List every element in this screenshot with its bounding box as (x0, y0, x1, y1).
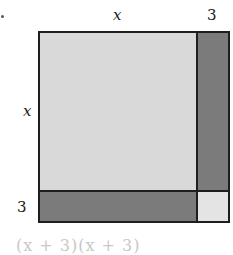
vertical-divider (196, 33, 198, 221)
expression-caption: (x + 3)(x + 3) (16, 236, 141, 255)
small-square-region (198, 192, 228, 221)
left-label-x: x (23, 104, 31, 119)
right-strip-region (198, 33, 228, 190)
bottom-strip-region (40, 192, 196, 221)
x-squared-region (40, 33, 196, 190)
left-label-3: 3 (17, 200, 27, 215)
outer-square (38, 31, 230, 223)
bullet-dot (1, 15, 4, 18)
top-label-x: x (113, 8, 121, 23)
horizontal-divider (40, 190, 228, 192)
top-label-3: 3 (207, 8, 217, 23)
